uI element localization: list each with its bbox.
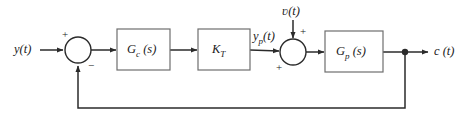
junction-nodes xyxy=(402,49,408,55)
controller-base: G xyxy=(127,42,136,56)
disturbance-input-arg: (t) xyxy=(288,4,300,18)
disturbance-summer-circle xyxy=(280,39,306,65)
disturbance-input-label: ʋ(t) xyxy=(282,5,300,18)
error-summer-plus-sign: + xyxy=(62,29,68,40)
output-label: c (t) xyxy=(434,45,455,58)
plant-input-arg: (t) xyxy=(263,29,275,43)
disturbance-summer-plus-sign-top: + xyxy=(300,26,306,37)
output-base: c xyxy=(434,44,440,58)
output-takeoff-node xyxy=(402,49,408,55)
diagram-vector-layer xyxy=(0,0,461,125)
plant-subscript: p xyxy=(345,51,350,61)
reference-input-label: y(t) xyxy=(14,43,31,56)
plant-base: G xyxy=(336,44,345,58)
plant-block-label: Gp (s) xyxy=(336,45,366,61)
reference-input-arg: (t) xyxy=(20,42,32,56)
controller-subscript: c xyxy=(136,49,140,59)
disturbance-summer-plus-sign-bottom: + xyxy=(276,62,282,73)
error-summer-minus-sign: − xyxy=(88,60,94,71)
controller-arg: (s) xyxy=(143,42,156,56)
gain-block-label: KT xyxy=(212,43,225,59)
plant-arg: (s) xyxy=(353,44,366,58)
wire-gain-to-disturbance-summer xyxy=(250,50,279,51)
block-diagram-canvas: y(t) ʋ(t) yp(t) c (t) Gc (s) KT Gp (s) +… xyxy=(0,0,461,125)
gain-subscript: T xyxy=(220,49,225,59)
controller-block-label: Gc (s) xyxy=(127,43,156,59)
plant-input-label: yp(t) xyxy=(253,30,275,46)
output-arg: (t) xyxy=(443,44,455,58)
